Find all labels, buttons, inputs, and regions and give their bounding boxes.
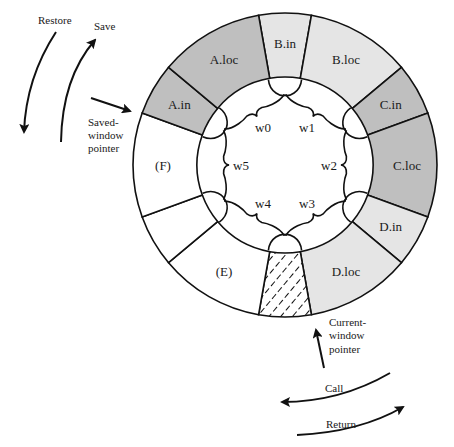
current-window-pointer-label: Current- window pointer: [329, 316, 369, 355]
segment-label: C.in: [380, 97, 403, 112]
segment-label: (F): [155, 158, 171, 173]
segment-label: D.in: [379, 219, 402, 234]
restore-label: Restore: [38, 14, 72, 26]
window-label-w4: w4: [255, 196, 271, 211]
call-label: Call: [325, 382, 343, 394]
restore-arrow-icon: [24, 32, 56, 132]
segment-label: B.loc: [332, 52, 360, 67]
window-label-w2: w2: [321, 158, 337, 173]
window-ring: B.inB.locC.inC.locD.inD.loc(E)(F)A.inA.l…: [133, 13, 437, 317]
save-label: Save: [94, 20, 116, 32]
segment-label: (E): [216, 264, 233, 279]
window-label-w0: w0: [255, 120, 271, 135]
segment-label: C.loc: [393, 158, 421, 173]
window-label-w3: w3: [299, 196, 315, 211]
segment-label: A.in: [168, 97, 191, 112]
window-curves: w0w1w2w3w4w5: [203, 80, 368, 251]
window-curve-w2: [341, 108, 351, 222]
window-curve-w5: [219, 108, 229, 222]
segment-label: B.in: [274, 36, 297, 51]
saved-window-pointer-arrow-icon: [91, 98, 130, 111]
register-window-diagram: B.inB.locC.inC.locD.inD.loc(E)(F)A.inA.l…: [0, 0, 454, 447]
segment-label: D.loc: [332, 264, 361, 279]
saved-window-pointer-label: Saved- window pointer: [88, 116, 126, 154]
window-label-w5: w5: [233, 158, 249, 173]
window-label-w1: w1: [299, 120, 315, 135]
current-window-pointer-arrow-icon: [316, 330, 324, 368]
segment-label: A.loc: [210, 52, 239, 67]
return-label: Return: [326, 418, 356, 430]
